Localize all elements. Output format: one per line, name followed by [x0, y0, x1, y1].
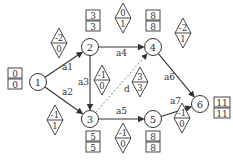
- free-float: 0: [56, 44, 61, 54]
- node-6: 6: [192, 96, 209, 113]
- network-diagram: a1a2a3a4da5a6a7 123456 00335588881111 -2…: [0, 0, 233, 165]
- total-float: 0: [120, 8, 125, 18]
- float-diamond-a2: -11: [47, 105, 63, 135]
- time-box-2: 33: [86, 10, 100, 32]
- earliest-time: 0: [12, 69, 18, 79]
- node-3: 3: [82, 111, 99, 128]
- float-diamond-a5: -10: [115, 123, 131, 153]
- node-5: 5: [145, 111, 162, 128]
- edge-a3: a3: [78, 56, 90, 110]
- edge-label: a3: [78, 77, 89, 87]
- edge-label: a4: [116, 48, 127, 58]
- free-float: 1: [120, 19, 125, 29]
- total-float: -1: [51, 110, 59, 120]
- edge-a6: a6: [158, 54, 194, 97]
- earliest-time: 3: [90, 11, 96, 21]
- node-1: 1: [30, 74, 47, 91]
- edge-a1: a1: [45, 52, 82, 77]
- free-float: 1: [52, 121, 57, 131]
- node-label: 5: [150, 114, 156, 125]
- edge-a4: a4: [99, 47, 144, 58]
- free-float: 0: [99, 81, 104, 91]
- latest-time: 11: [216, 109, 227, 119]
- edge-label: d: [124, 84, 130, 94]
- earliest-time: 5: [90, 132, 96, 142]
- edge-label: a1: [62, 62, 73, 72]
- total-float: 3: [137, 72, 142, 82]
- free-float: 0: [120, 139, 125, 149]
- latest-time: 5: [90, 143, 96, 153]
- latest-time: 0: [12, 80, 18, 90]
- edges-layer: a1a2a3a4da5a6a7: [45, 47, 194, 119]
- time-box-6: 1111: [214, 97, 230, 119]
- node-label: 2: [87, 42, 93, 53]
- float-diamond-d: 33: [132, 67, 148, 97]
- time-box-5: 88: [146, 131, 160, 153]
- latest-time: 8: [150, 143, 156, 153]
- edge-label: a5: [116, 106, 127, 116]
- total-float: -1: [178, 108, 186, 118]
- edge-a5: a5: [99, 106, 144, 119]
- earliest-time: 8: [150, 11, 156, 21]
- node-2: 2: [82, 39, 99, 56]
- total-float: -1: [98, 70, 106, 80]
- total-float: -2: [179, 23, 187, 33]
- float-diamond-a4: 01: [115, 3, 131, 33]
- total-float: -1: [119, 128, 127, 138]
- node-label: 3: [87, 114, 93, 125]
- node-4: 4: [145, 39, 162, 56]
- node-label: 6: [197, 99, 203, 110]
- free-float: 3: [137, 83, 142, 93]
- edge-label: a6: [164, 72, 175, 82]
- free-float: 0: [179, 119, 184, 129]
- earliest-time: 11: [216, 98, 227, 108]
- edge-label: a2: [62, 87, 73, 97]
- time-box-3: 55: [86, 131, 100, 153]
- latest-time: 8: [150, 22, 156, 32]
- edge-label: a7: [170, 96, 181, 106]
- float-diamond-a3: -10: [94, 65, 110, 95]
- latest-time: 3: [90, 22, 96, 32]
- float-diamond-a1: -20: [51, 28, 67, 58]
- free-float: 1: [180, 34, 185, 44]
- time-box-1: 00: [8, 68, 22, 90]
- time-box-4: 88: [146, 10, 160, 32]
- earliest-time: 8: [150, 132, 156, 142]
- node-label: 4: [150, 42, 156, 53]
- float-diamond-a6: -21: [175, 18, 191, 48]
- total-float: -2: [55, 33, 63, 43]
- node-label: 1: [35, 77, 41, 88]
